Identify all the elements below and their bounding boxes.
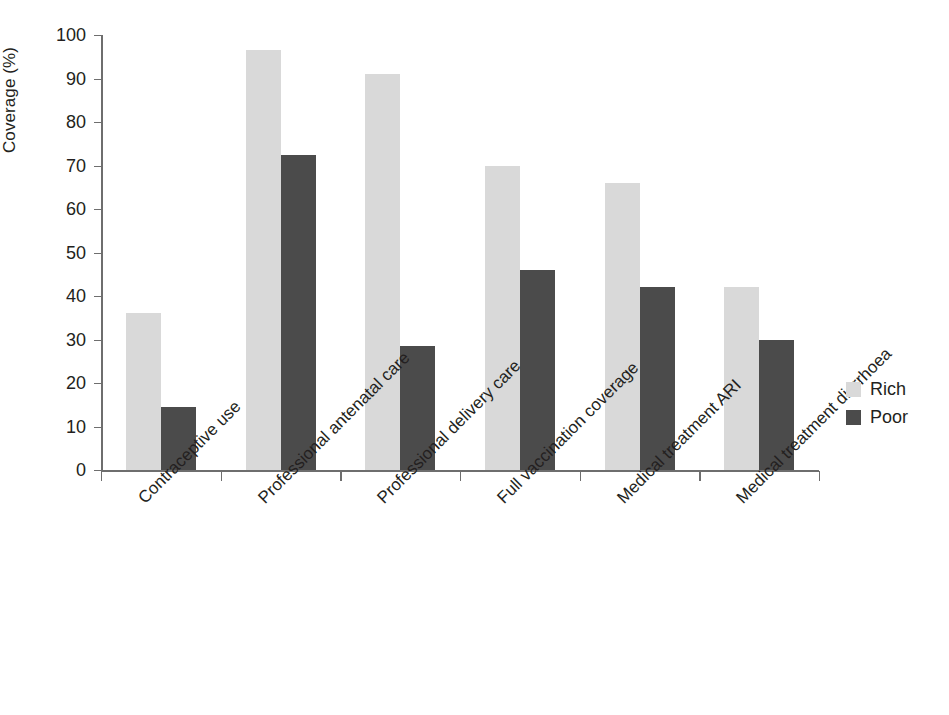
bar-rich-3 xyxy=(485,166,520,471)
y-tick-label-80: 80 xyxy=(30,113,86,131)
bar-chart: Coverage (%) 0102030405060708090100 Cont… xyxy=(0,0,949,715)
x-tick-6 xyxy=(819,471,820,481)
y-tick-label-10: 10 xyxy=(30,418,86,436)
y-tick-label-30: 30 xyxy=(30,331,86,349)
x-tick-0 xyxy=(101,471,102,481)
y-tick-label-50: 50 xyxy=(30,244,86,262)
legend-item-rich: Rich xyxy=(846,375,908,403)
bar-rich-0 xyxy=(126,313,161,470)
x-tick-4 xyxy=(580,471,581,481)
chart-legend: RichPoor xyxy=(846,375,908,431)
x-tick-2 xyxy=(340,471,341,481)
y-tick-label-40: 40 xyxy=(30,287,86,305)
y-tick-label-90: 90 xyxy=(30,70,86,88)
legend-swatch-rich xyxy=(846,382,861,397)
y-tick-label-100: 100 xyxy=(30,26,86,44)
legend-item-poor: Poor xyxy=(846,403,908,431)
x-tick-5 xyxy=(699,471,700,481)
y-tick-label-20: 20 xyxy=(30,374,86,392)
bar-rich-1 xyxy=(246,50,281,470)
legend-label-rich: Rich xyxy=(870,380,906,398)
bar-poor-1 xyxy=(281,155,316,470)
y-tick-label-0: 0 xyxy=(30,461,86,479)
bar-rich-4 xyxy=(605,183,640,470)
y-tick-label-70: 70 xyxy=(30,157,86,175)
legend-label-poor: Poor xyxy=(870,408,908,426)
bar-rich-2 xyxy=(365,74,400,470)
x-tick-1 xyxy=(221,471,222,481)
y-tick-label-60: 60 xyxy=(30,200,86,218)
x-tick-3 xyxy=(460,471,461,481)
legend-swatch-poor xyxy=(846,410,861,425)
